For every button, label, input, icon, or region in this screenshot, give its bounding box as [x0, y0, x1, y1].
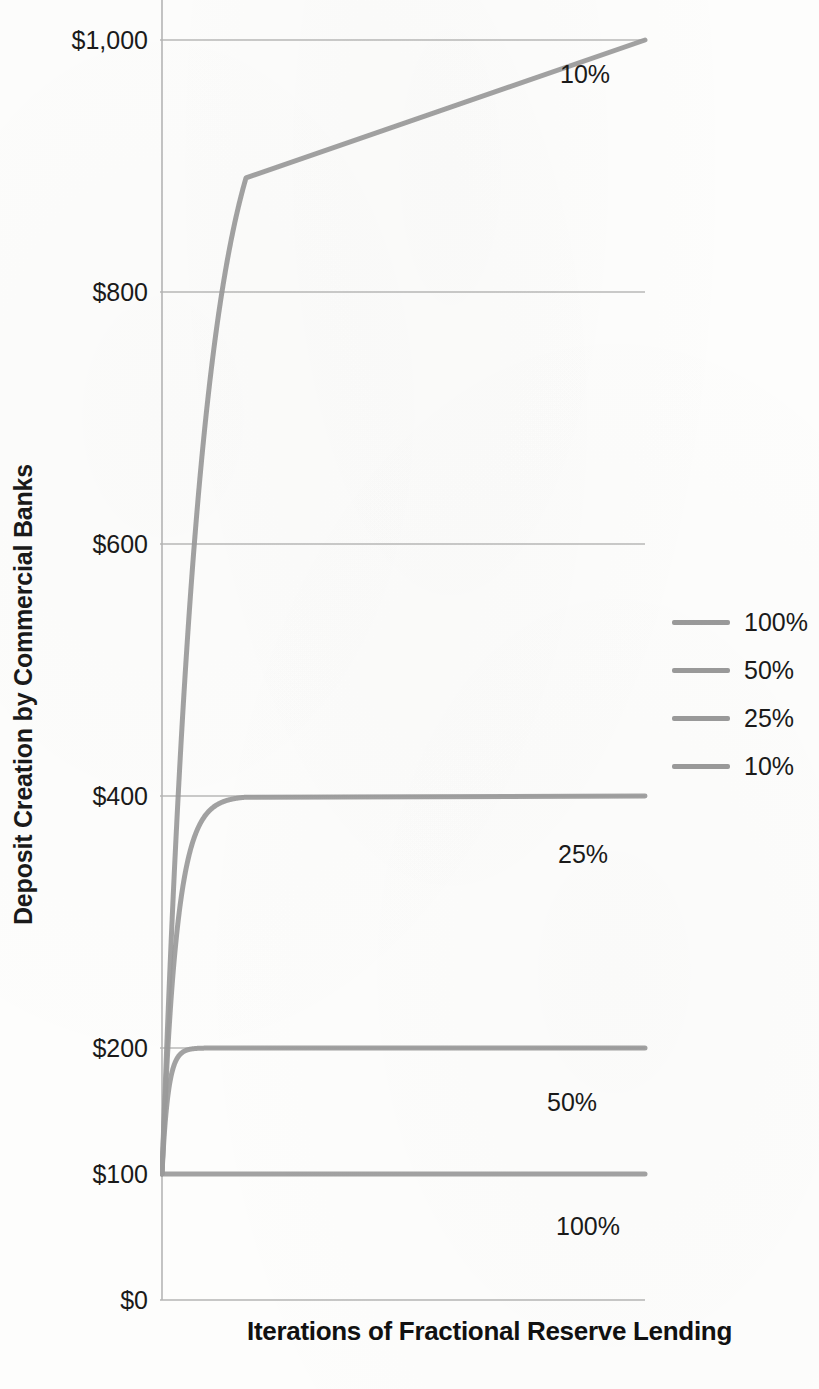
y-tick-label: $1,000 — [0, 26, 148, 55]
y-tick-label: $100 — [0, 1160, 148, 1189]
curve-end-label: 10% — [560, 60, 610, 89]
y-tick-label: $0 — [0, 1286, 148, 1315]
series-line-10pct — [162, 40, 645, 1174]
y-tick-label: $600 — [0, 530, 148, 559]
gridlines — [160, 40, 645, 1048]
legend-line-swatch-icon — [672, 620, 730, 625]
legend-line-swatch-icon — [672, 668, 730, 673]
legend-item-label: 10% — [744, 752, 794, 781]
y-tick-label: $800 — [0, 278, 148, 307]
y-tick-label: $200 — [0, 1034, 148, 1063]
legend-item[interactable]: 10% — [672, 742, 808, 790]
curve-end-label: 50% — [547, 1088, 597, 1117]
legend-line-swatch-icon — [672, 716, 730, 721]
chart-page: Deposit Creation by Commercial Banks $0$… — [0, 0, 819, 1389]
legend-item-label: 100% — [744, 608, 808, 637]
y-axis-tick-labels: $0$100$200$400$600$800$1,000 — [0, 0, 148, 1389]
legend-item-label: 25% — [744, 704, 794, 733]
legend-item[interactable]: 25% — [672, 694, 808, 742]
chart-legend: 100%50%25%10% — [672, 598, 808, 790]
legend-item[interactable]: 50% — [672, 646, 808, 694]
legend-item[interactable]: 100% — [672, 598, 808, 646]
x-axis-title: Iterations of Fractional Reserve Lending — [160, 1316, 819, 1347]
legend-item-label: 50% — [744, 656, 794, 685]
y-tick-label: $400 — [0, 782, 148, 811]
data-series-curves — [162, 40, 645, 1174]
curve-end-label: 25% — [558, 840, 608, 869]
legend-line-swatch-icon — [672, 764, 730, 769]
curve-end-label: 100% — [556, 1212, 620, 1241]
